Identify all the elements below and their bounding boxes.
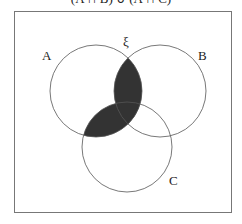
venn-diagram: ξ A B C (0, 0, 242, 224)
shaded-region (82, 45, 206, 192)
set-label-b: B (198, 48, 207, 63)
universal-label: ξ (123, 34, 129, 49)
set-label-c: C (169, 173, 178, 188)
set-label-a: A (42, 48, 52, 63)
